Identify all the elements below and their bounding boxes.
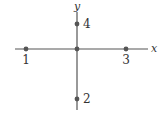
x-axis-label: x: [151, 42, 158, 55]
point-3-marker: [124, 47, 129, 52]
point-4-label: 4: [83, 17, 91, 31]
point-1-label: 1: [22, 53, 30, 67]
point-2-marker: [75, 97, 80, 102]
point-4-marker: [75, 22, 80, 27]
y-axis-label: y: [73, 0, 81, 13]
origin-point: [75, 47, 80, 52]
point-1-marker: [24, 47, 29, 52]
labeled-points: 1234: [22, 17, 130, 106]
point-2-label: 2: [83, 92, 91, 106]
coordinate-diagram: x y 1234: [0, 0, 161, 122]
point-3-label: 3: [122, 53, 130, 67]
